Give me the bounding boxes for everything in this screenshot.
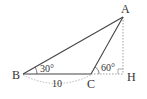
angle-label-c: 60°: [101, 62, 115, 73]
vertex-label-h: H: [127, 70, 136, 84]
angle-arc-b: [35, 67, 37, 74]
angle-label-b: 30°: [40, 63, 54, 74]
length-label-bc: 10: [52, 78, 62, 89]
angle-arc-c: [95, 67, 99, 74]
right-angle-marker: [118, 69, 123, 74]
vertex-label-c: C: [87, 77, 95, 91]
vertex-label-a: A: [121, 2, 130, 16]
vertex-label-b: B: [12, 68, 20, 82]
geometry-diagram: A B C H 30° 60° 10: [0, 0, 147, 99]
